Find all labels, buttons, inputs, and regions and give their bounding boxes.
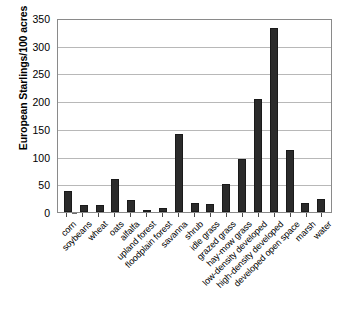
bar-slot [282,20,298,212]
y-tick-label: 100 [20,152,50,164]
x-tick-slot [202,213,218,218]
y-tick-label: 0 [20,207,50,219]
y-axis-tick-labels: 350300250200150100500 [20,19,50,213]
x-tick-slot [171,213,187,218]
x-tick-mark [114,213,115,217]
y-tick-label: 50 [20,179,50,191]
x-tick-mark [242,213,243,217]
bar-slot [202,20,218,212]
x-tick-mark [290,213,291,217]
x-tick-mark [258,213,259,217]
x-tick-slot [139,213,155,218]
x-axis-tick-labels: cornsoybeanswheatoatsalfalfaupland fores… [57,219,332,322]
x-tick-slot [282,213,298,218]
bar-slot [171,20,187,212]
x-tick-slot [75,213,91,218]
y-tick-label: 150 [20,124,50,136]
bar[interactable] [317,199,325,212]
bar[interactable] [206,204,214,212]
bar[interactable] [159,208,167,212]
x-tick-mark [130,213,131,217]
x-tick-mark [306,213,307,217]
bar[interactable] [222,184,230,212]
x-tick-slot [59,213,75,218]
x-tick-mark [98,213,99,217]
bar[interactable] [254,99,262,212]
bar-slot [297,20,313,212]
bar-slot [218,20,234,212]
bar[interactable] [143,210,151,212]
x-tick-slot [107,213,123,218]
x-tick-slot [314,213,330,218]
x-tick-mark [162,213,163,217]
x-tick-slot [298,213,314,218]
bar-slot [139,20,155,212]
bar-slot [92,20,108,212]
bar-slot [107,20,123,212]
bar[interactable] [286,150,294,212]
bar[interactable] [238,159,246,212]
x-tick-mark [146,213,147,217]
bar-slot [155,20,171,212]
y-tick-label: 250 [20,68,50,80]
bar-slot [60,20,76,212]
bar[interactable] [127,200,135,212]
bar[interactable] [191,203,199,212]
x-tick-mark [66,213,67,217]
bar-slot [187,20,203,212]
x-tick-mark [82,213,83,217]
y-tick-label: 300 [20,41,50,53]
x-tick-slot [187,213,203,218]
x-tick-mark [274,213,275,217]
bars-group [58,20,331,212]
x-tick-mark [194,213,195,217]
bar[interactable] [111,179,119,212]
bar-slot [123,20,139,212]
bar[interactable] [96,205,104,212]
bar-slot [76,20,92,212]
plot-area [57,19,332,213]
bar[interactable] [270,28,278,212]
x-tick-slot [266,213,282,218]
y-tick-label: 350 [20,13,50,25]
x-tick-slot [218,213,234,218]
x-tick-slot [234,213,250,218]
bar[interactable] [64,191,72,212]
bar[interactable] [301,203,309,212]
x-axis-tick-marks [57,213,332,218]
y-tick-label: 200 [20,96,50,108]
bar-slot [234,20,250,212]
bar[interactable] [175,134,183,212]
x-tick-slot [123,213,139,218]
x-tick-slot [250,213,266,218]
x-tick-mark [321,213,322,217]
x-tick-slot [91,213,107,218]
bar-slot [266,20,282,212]
x-tick-mark [226,213,227,217]
bar-chart-figure: European Starlings/100 acres 35030025020… [0,0,343,322]
bar[interactable] [80,205,88,212]
bar-slot [313,20,329,212]
x-tick-mark [178,213,179,217]
bar-slot [250,20,266,212]
x-tick-mark [210,213,211,217]
x-tick-slot [155,213,171,218]
